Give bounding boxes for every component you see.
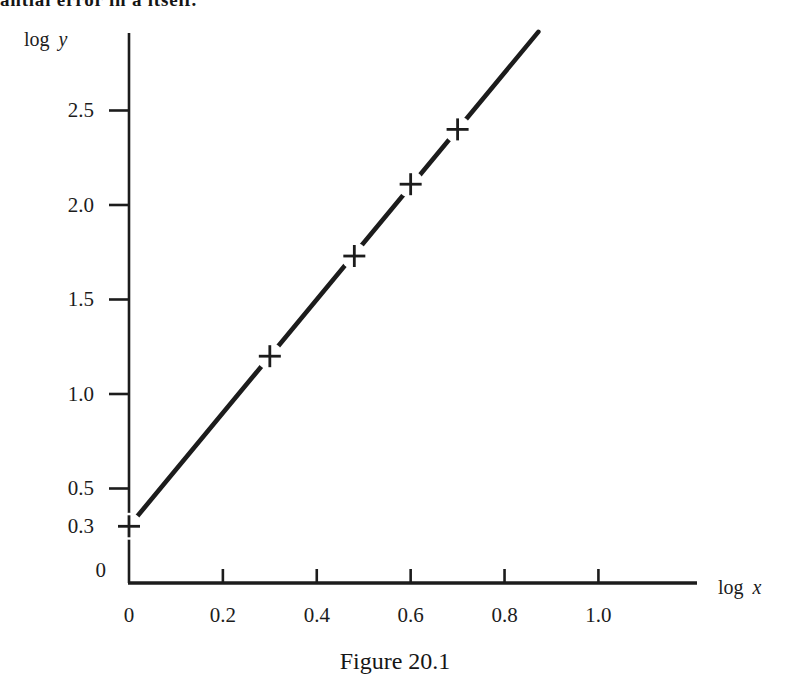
y-tick-label: 0	[96, 558, 107, 582]
x-tick-label: 0	[124, 603, 135, 627]
x-axis-title-word: log	[718, 576, 744, 598]
y-tick-label: 1.5	[68, 287, 94, 311]
y-tick-label: 2.0	[68, 193, 94, 217]
figure-plot-svg: 00.20.40.60.81.02.52.01.51.00.50.30	[0, 0, 790, 650]
x-tick-label: 1.0	[585, 603, 611, 627]
y-tick-label: 0.3	[68, 514, 94, 538]
x-axis-title: logx	[718, 576, 761, 599]
y-tick-label: 0.5	[68, 476, 94, 500]
x-tick-label: 0.2	[210, 603, 236, 627]
x-tick-label: 0.6	[398, 603, 424, 627]
best-fit-line	[129, 32, 538, 526]
x-axis-title-variable: x	[753, 576, 762, 598]
figure-caption: Figure 20.1	[0, 648, 790, 675]
y-tick-label: 2.5	[68, 98, 94, 122]
x-tick-label: 0.4	[304, 603, 331, 627]
y-tick-label: 1.0	[68, 382, 94, 406]
scanned-textbook-page: antial error in a itself. logy 00.20.40.…	[0, 0, 790, 691]
x-tick-label: 0.8	[491, 603, 517, 627]
